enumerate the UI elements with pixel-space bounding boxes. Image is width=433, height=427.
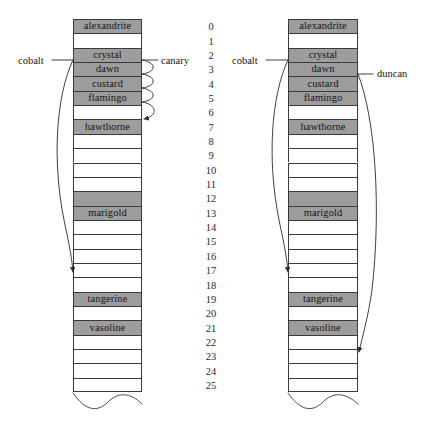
table-row[interactable] [288,363,358,377]
table-row[interactable] [288,378,358,392]
cell-label: tangerine [303,294,343,305]
table-row[interactable] [73,306,142,320]
table-row[interactable] [73,148,142,162]
table-row[interactable] [73,335,142,349]
index-label: 0 [198,21,224,32]
table-row[interactable] [73,33,142,47]
cobalt-probe-curve-left [57,60,73,272]
table-row[interactable]: vasoline [288,320,358,334]
index-label: 4 [198,79,224,90]
cell-label: marigold [88,208,127,219]
cell-label: dawn [96,64,119,75]
diagram-canvas: alexandritecrystaldawncustardflamingohaw… [0,0,433,427]
table-row[interactable] [73,134,142,148]
table-row[interactable]: marigold [288,206,358,220]
index-label: 11 [198,179,224,190]
table-row[interactable] [73,363,142,377]
index-label: 25 [198,380,224,391]
index-label: 13 [198,208,224,219]
table-row[interactable]: vasoline [73,320,142,334]
cell-label: custard [92,79,123,90]
table-row[interactable] [288,335,358,349]
table-row[interactable] [73,105,142,119]
table-row[interactable]: flamingo [288,91,358,105]
table-row[interactable] [73,277,142,291]
index-label: 19 [198,294,224,305]
table-row[interactable] [73,163,142,177]
index-label: 18 [198,280,224,291]
index-label: 3 [198,64,224,75]
cell-label: vasoline [305,323,341,334]
table-row[interactable] [288,277,358,291]
canary-arc-2 [142,74,153,88]
cell-label: crystal [309,50,338,61]
table-row[interactable] [73,263,142,277]
index-label: 17 [198,265,224,276]
index-label: 12 [198,193,224,204]
table-row[interactable] [288,177,358,191]
table-row[interactable]: hawthorne [73,119,142,133]
table-row[interactable] [73,191,142,205]
table-row[interactable] [73,177,142,191]
cobalt-probe-curve-right [272,60,288,272]
table-row[interactable]: marigold [73,206,142,220]
table-row[interactable] [288,249,358,263]
duncan-probe-curve [358,74,376,352]
cobalt-label-left: cobalt [18,55,44,66]
cell-label: custard [307,79,338,90]
table-row[interactable] [73,234,142,248]
index-label: 10 [198,165,224,176]
cell-label: tangerine [88,294,128,305]
index-label: 7 [198,122,224,133]
index-label: 5 [198,93,224,104]
table-row[interactable]: crystal [73,48,142,62]
table-row[interactable] [288,220,358,234]
table-row[interactable]: flamingo [73,91,142,105]
canary-label: canary [161,55,189,66]
table-row[interactable]: crystal [288,48,358,62]
table-row[interactable]: custard [73,76,142,90]
index-label: 23 [198,351,224,362]
table-row[interactable]: hawthorne [288,119,358,133]
table-row[interactable] [288,349,358,363]
table-row[interactable]: tangerine [288,292,358,306]
table-row[interactable]: dawn [288,62,358,76]
index-label: 8 [198,136,224,147]
canary-arc-3 [142,88,153,102]
table-row[interactable] [288,234,358,248]
cobalt-label-right: cobalt [232,55,258,66]
index-label: 14 [198,222,224,233]
table-row[interactable] [73,378,142,392]
table-row[interactable] [288,134,358,148]
index-label: 2 [198,50,224,61]
table-row[interactable] [288,148,358,162]
cell-label: marigold [304,208,343,219]
table-row[interactable]: custard [288,76,358,90]
right-hash-table: alexandritecrystaldawncustardflamingohaw… [288,0,358,427]
canary-arc-1 [142,60,153,74]
table-row[interactable]: dawn [73,62,142,76]
table-row[interactable] [288,163,358,177]
table-row[interactable] [73,249,142,263]
cell-label: dawn [311,64,334,75]
table-row[interactable]: alexandrite [288,19,358,33]
table-row[interactable] [288,191,358,205]
duncan-label: duncan [377,68,407,79]
index-label: 16 [198,251,224,262]
table-row[interactable] [73,220,142,234]
cell-label: flamingo [304,93,343,104]
table-row[interactable] [288,105,358,119]
table-row[interactable] [288,306,358,320]
table-row[interactable]: tangerine [73,292,142,306]
cell-label: alexandrite [299,21,347,32]
table-row[interactable] [73,349,142,363]
index-label: 22 [198,337,224,348]
table-row[interactable] [288,263,358,277]
table-row[interactable] [288,33,358,47]
index-label: 1 [198,36,224,47]
canary-arc-4 [142,102,154,119]
cell-label: alexandrite [84,21,132,32]
index-label: 20 [198,308,224,319]
table-row[interactable]: alexandrite [73,19,142,33]
left-hash-table: alexandritecrystaldawncustardflamingohaw… [73,0,142,427]
